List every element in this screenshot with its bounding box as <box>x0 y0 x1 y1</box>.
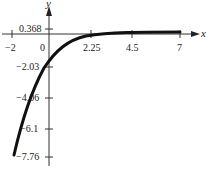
x-tick-label: 0 <box>40 42 45 53</box>
x-axis-label: x <box>200 27 206 39</box>
chart-svg: x y −2 0 2.25 4.5 7 0.368 −2.03 −4.06 −6… <box>0 0 210 169</box>
x-axis-arrow-icon <box>191 31 200 37</box>
x-tick-label: 4.5 <box>126 42 139 53</box>
y-axis-label: y <box>45 0 51 9</box>
x-tick-label: −2 <box>5 42 16 53</box>
y-tick-label: −7.76 <box>16 151 39 162</box>
chart: x y −2 0 2.25 4.5 7 0.368 −2.03 −4.06 −6… <box>0 0 210 169</box>
y-tick-label: −2.03 <box>16 61 39 72</box>
x-tick-label: 7 <box>177 42 182 53</box>
y-tick-label: −4.06 <box>16 92 39 103</box>
y-tick-label: 0.368 <box>19 23 42 34</box>
x-tick-label: 2.25 <box>83 42 101 53</box>
